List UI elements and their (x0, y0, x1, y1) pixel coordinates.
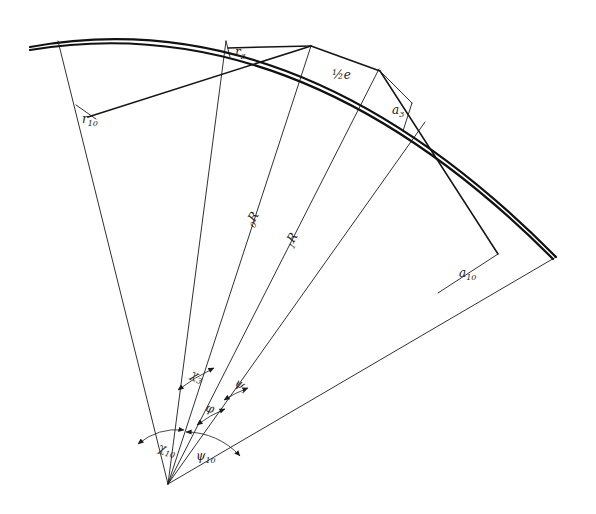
radial-ray-r3 (168, 41, 226, 484)
label-psi1: ψ1 (232, 375, 252, 396)
radial-ray-R0 (168, 46, 311, 484)
label-psi10: ψ10 (196, 449, 216, 465)
label-a10: a10 (459, 266, 476, 282)
chord-a3-extension (380, 71, 498, 254)
inner-arc (30, 43, 553, 259)
tick-r3 (226, 41, 230, 57)
label-half-e: ½e (332, 68, 351, 82)
radial-ray-a3 (168, 122, 425, 484)
angle-arc-psi10 (186, 432, 240, 456)
label-R1: 1R (281, 230, 302, 250)
label-R0: 0R (242, 209, 263, 229)
chord-to-r10 (88, 46, 311, 117)
radial-ray-R1 (168, 69, 379, 484)
chord-a3-close (403, 103, 412, 131)
radial-ray-outer-left (58, 41, 168, 484)
geometry-figure: r10 r3 ½e a3 a10 0R 1R χ3 φ ψ1 (0, 0, 596, 514)
diagram-canvas: r10 r3 ½e a3 a10 0R 1R χ3 φ ψ1 (0, 0, 596, 514)
outer-arc (30, 39, 556, 257)
chord-a3 (380, 71, 412, 103)
label-chi10: χ10 (156, 440, 178, 460)
